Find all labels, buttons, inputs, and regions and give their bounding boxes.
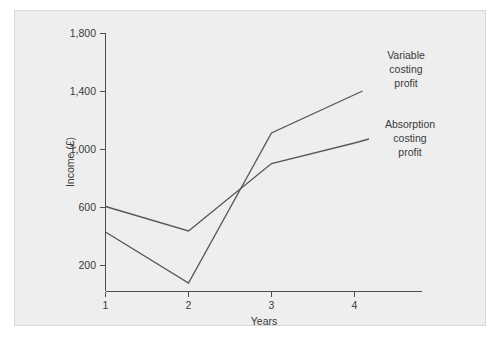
annotation-absorption-line-1: Absorption — [385, 118, 435, 130]
y-axis-title: Income (£) — [64, 137, 76, 187]
y-tick-label-1800: 1,800 — [70, 27, 96, 39]
x-tick-label-4: 4 — [352, 299, 358, 311]
annotation-absorption-line-3: profit — [398, 146, 421, 158]
series-line-variable-costing-profit — [106, 91, 363, 283]
annotation-variable-line-3: profit — [394, 77, 417, 89]
x-axis-title: Years — [251, 315, 277, 327]
y-axis-ticks — [100, 34, 106, 266]
series-line-absorption-costing-profit — [106, 143, 355, 231]
leader-line-absorption — [355, 139, 370, 143]
x-axis-ticks — [106, 292, 355, 298]
y-tick-label-600: 600 — [78, 201, 96, 213]
annotation-absorption-line-2: costing — [393, 132, 426, 144]
x-tick-label-3: 3 — [269, 299, 275, 311]
annotation-variable-costing-profit: Variable costing profit — [387, 49, 425, 89]
y-tick-label-1400: 1,400 — [70, 85, 96, 97]
annotation-absorption-costing-profit: Absorption costing profit — [385, 118, 435, 158]
annotation-variable-line-2: costing — [389, 63, 422, 75]
chart-figure: 1,800 1,400 1,000 600 200 1 2 3 4 Years … — [0, 0, 503, 350]
x-tick-label-2: 2 — [186, 299, 192, 311]
line-chart: 1,800 1,400 1,000 600 200 1 2 3 4 Years … — [0, 0, 503, 350]
x-tick-label-1: 1 — [103, 299, 109, 311]
annotation-variable-line-1: Variable — [387, 49, 425, 61]
y-tick-label-200: 200 — [78, 259, 96, 271]
